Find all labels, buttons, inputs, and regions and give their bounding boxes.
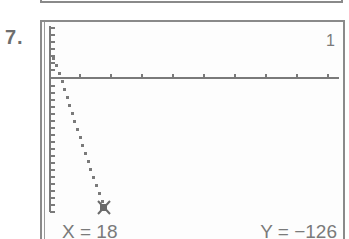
y-axis-ticks [50,28,55,212]
trace-x-readout: X = 18 [62,221,117,239]
window-max-label: 1 [326,32,335,50]
graph-plot [42,22,343,239]
calculator-screen: 1 X = 18 Y = −126 [40,20,345,239]
previous-screen-frame [40,0,343,3]
figure: 7. [0,0,349,239]
trace-y-readout: Y = −126 [260,221,337,239]
problem-number: 7. [5,26,24,49]
